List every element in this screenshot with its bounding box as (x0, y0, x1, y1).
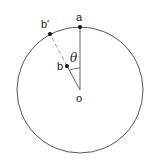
theta-arc (70, 68, 80, 70)
label-theta: θ (70, 51, 78, 65)
point-b-prime (48, 32, 52, 36)
label-a: a (76, 11, 83, 23)
point-b (65, 64, 69, 68)
point-a (78, 25, 82, 29)
label-o: o (76, 92, 82, 104)
segment-ob (67, 66, 80, 90)
label-b: b (57, 60, 63, 72)
label-b-prime: b' (41, 18, 49, 30)
circle-diagram: a b' b o θ (0, 0, 155, 163)
